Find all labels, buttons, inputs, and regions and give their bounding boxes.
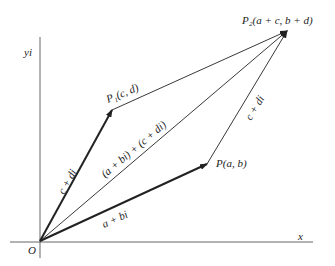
vector-diagram: yi x O P₂(a + c, b + d) P₁(c, d) P(a, b)… [0, 0, 335, 266]
vector-sum-label: (a + bi) + (c + di) [99, 118, 170, 180]
point-p2-label: P₂(a + c, b + d) [241, 14, 313, 27]
point-p-label: P(a, b) [215, 157, 247, 170]
vector-p-p2 [207, 31, 287, 164]
origin-label: O [28, 244, 36, 256]
point-p1-label: P₁(c, d) [103, 81, 140, 106]
x-axis-label: x [297, 230, 303, 242]
vector-c-di-label: c + di [55, 167, 78, 196]
y-axis-label: yi [23, 46, 32, 58]
vector-sum [40, 31, 287, 241]
vector-p-p2-label: c + di [242, 93, 266, 122]
